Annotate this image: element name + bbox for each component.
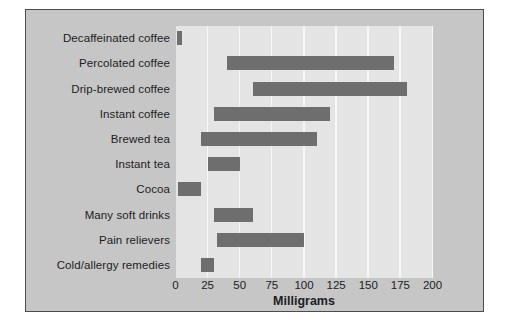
x-tick-label: 75 (265, 279, 278, 291)
x-axis: 0255075100125150175200 (176, 279, 433, 293)
x-tick-label: 100 (294, 279, 313, 291)
range-bar (178, 182, 201, 196)
bar-track (176, 202, 433, 227)
x-tick-label: 50 (233, 279, 246, 291)
chart-row: Instant tea (26, 152, 433, 177)
x-tick-label: 150 (359, 279, 378, 291)
chart-row: Brewed tea (26, 126, 433, 151)
bar-track (176, 152, 433, 177)
x-tick-label: 0 (172, 279, 178, 291)
chart-row: Cocoa (26, 177, 433, 202)
category-label: Brewed tea (26, 133, 176, 145)
x-tick-label: 25 (201, 279, 214, 291)
bar-track (176, 252, 433, 277)
bar-track (176, 177, 433, 202)
category-label: Pain relievers (26, 234, 176, 246)
x-tick-label: 175 (391, 279, 410, 291)
category-label: Decaffeinated coffee (26, 32, 176, 44)
chart-row: Cold/allergy remedies (26, 252, 433, 277)
bar-track (176, 101, 433, 126)
category-label: Percolated coffee (26, 57, 176, 69)
chart-row: Percolated coffee (26, 51, 433, 76)
chart-row: Decaffeinated coffee (26, 26, 433, 51)
range-bar (177, 31, 182, 45)
x-axis-title: Milligrams (176, 294, 433, 308)
range-bar (208, 157, 240, 171)
range-bar (217, 233, 304, 247)
chart-row: Pain relievers (26, 227, 433, 252)
chart-row: Many soft drinks (26, 202, 433, 227)
chart-panel: Decaffeinated coffeePercolated coffeeDri… (25, 9, 484, 312)
chart-row: Instant coffee (26, 101, 433, 126)
chart-row: Drip-brewed coffee (26, 76, 433, 101)
range-bar (214, 107, 330, 121)
bar-track (176, 26, 433, 51)
range-bar (253, 82, 407, 96)
range-bar (214, 208, 253, 222)
x-tick-label: 200 (423, 279, 442, 291)
category-label: Drip-brewed coffee (26, 83, 176, 95)
bar-track (176, 76, 433, 101)
category-label: Cocoa (26, 183, 176, 195)
category-label: Many soft drinks (26, 209, 176, 221)
x-tick-label: 125 (327, 279, 346, 291)
bar-track (176, 126, 433, 151)
category-label: Instant coffee (26, 108, 176, 120)
bar-track (176, 51, 433, 76)
range-bar (201, 258, 214, 272)
bar-track (176, 227, 433, 252)
range-bar (227, 56, 394, 70)
range-bar (201, 132, 317, 146)
category-label: Cold/allergy remedies (26, 259, 176, 271)
category-label: Instant tea (26, 158, 176, 170)
chart-rows: Decaffeinated coffeePercolated coffeeDri… (26, 26, 433, 278)
